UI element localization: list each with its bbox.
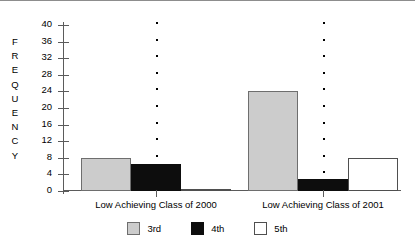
white-swatch-icon xyxy=(254,222,267,235)
legend-item-4th: 4th xyxy=(191,222,224,235)
y-axis-tick: 36 xyxy=(58,42,69,43)
gray-swatch-icon xyxy=(127,222,140,235)
y-axis-tick: 24 xyxy=(58,91,69,92)
y-axis-tick-label: 12 xyxy=(32,134,52,145)
y-axis-title: F R E Q U E N C Y xyxy=(8,35,22,163)
legend-label: 4th xyxy=(211,223,224,234)
y-axis-tick: 28 xyxy=(58,75,69,76)
x-axis-tick xyxy=(156,190,157,197)
y-axis-tick: 8 xyxy=(58,158,69,159)
black-swatch-icon xyxy=(191,222,204,235)
y-axis-title-letter: Y xyxy=(8,149,22,163)
y-axis-tick-label: 28 xyxy=(32,68,52,79)
bar-5th-low-achieving-class-of-2000 xyxy=(181,189,231,191)
y-axis-tick-label: 36 xyxy=(32,35,52,46)
y-axis-tick: 16 xyxy=(58,125,69,126)
bar-4th-low-achieving-class-of-2000 xyxy=(131,164,181,191)
y-axis-tick-label: 24 xyxy=(32,84,52,95)
y-axis-tick: 0 xyxy=(58,191,69,192)
y-axis-tick: 20 xyxy=(58,108,69,109)
y-axis-tick: 32 xyxy=(58,58,69,59)
dotted-reference-line xyxy=(323,22,325,188)
y-axis-tick-label: 16 xyxy=(32,118,52,129)
x-axis-tick xyxy=(323,190,324,197)
y-axis-tick-label: 4 xyxy=(32,167,52,178)
y-axis-title-letter: F xyxy=(8,35,22,49)
y-axis-tick-label: 20 xyxy=(32,101,52,112)
legend-item-3rd: 3rd xyxy=(127,222,161,235)
y-axis-title-letter: R xyxy=(8,49,22,63)
y-axis-tick: 12 xyxy=(58,141,69,142)
legend-label: 5th xyxy=(274,223,287,234)
y-axis-title-letter: N xyxy=(8,120,22,134)
x-axis-category-label: Low Achieving Class of 2001 xyxy=(262,199,383,210)
y-axis-tick-label: 32 xyxy=(32,51,52,62)
x-axis-category-label: Low Achieving Class of 2000 xyxy=(95,199,216,210)
bar-3rd-low-achieving-class-of-2001 xyxy=(248,91,298,191)
bar-5th-low-achieving-class-of-2001 xyxy=(348,158,398,191)
y-axis-tick: 4 xyxy=(58,174,69,175)
y-axis-title-letter: E xyxy=(8,63,22,77)
y-axis-tick-label: 8 xyxy=(32,151,52,162)
plot-area: 0481216202428323640 xyxy=(63,25,401,191)
chart-legend: 3rd 4th 5th xyxy=(0,222,415,235)
y-axis-title-letter: C xyxy=(8,134,22,148)
y-axis-title-letter: U xyxy=(8,92,22,106)
y-axis-tick: 40 xyxy=(58,25,69,26)
y-axis-tick-label: 0 xyxy=(32,184,52,195)
bar-3rd-low-achieving-class-of-2000 xyxy=(81,158,131,191)
legend-item-5th: 5th xyxy=(254,222,287,235)
y-axis-title-letter: E xyxy=(8,106,22,120)
bar-chart-figure: F R E Q U E N C Y 0481216202428323640 Lo… xyxy=(0,0,415,246)
y-axis-title-letter: Q xyxy=(8,78,22,92)
y-axis-tick-label: 40 xyxy=(32,18,52,29)
legend-label: 3rd xyxy=(147,223,161,234)
